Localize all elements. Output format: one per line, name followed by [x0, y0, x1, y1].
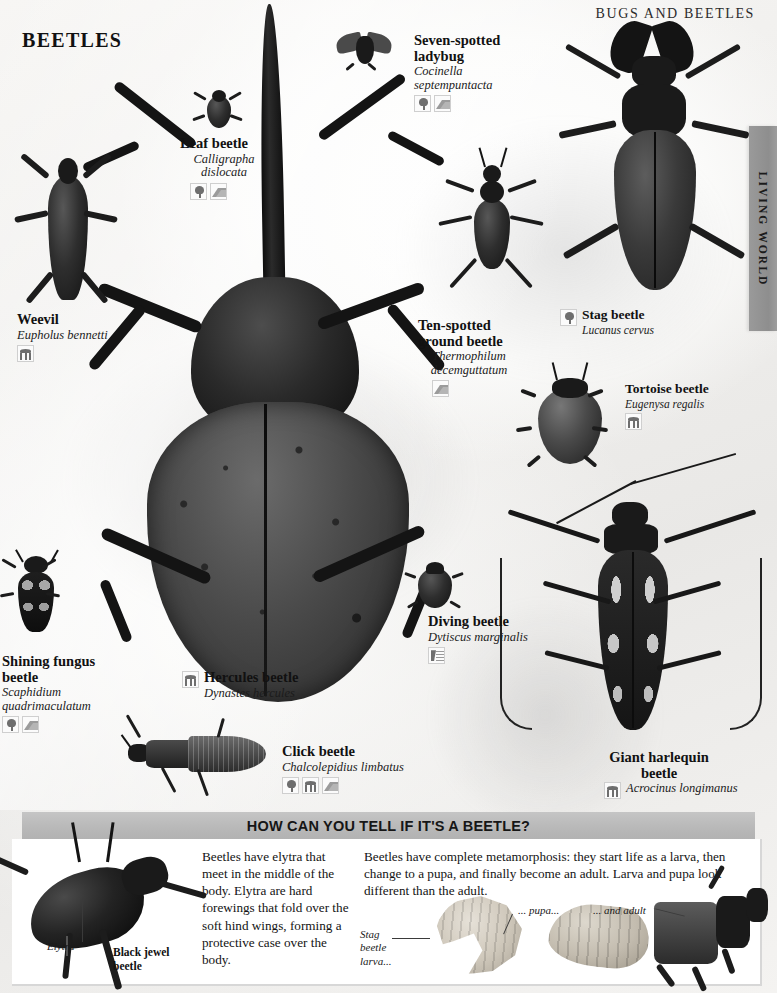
label-stag-beetle: Stag beetle Lucanus cervus [560, 308, 654, 336]
hercules-beetle-photo [85, 2, 445, 692]
stag-beetle-common-name: Stag beetle [582, 308, 654, 323]
tree-icon [560, 309, 577, 326]
giant-harlequin-beetle-habitat-icons [604, 782, 621, 799]
canopy-icon [182, 671, 199, 688]
diving-beetle-latin-name: Dytiscus marginalis [428, 631, 528, 645]
mountain-icon [434, 95, 451, 112]
hercules-beetle-latin-name: Dynastes hercules [204, 687, 298, 701]
black-jewel-beetle-callout-text: Black jewel beetle [113, 946, 170, 972]
stag-beetle-latin-name: Lucanus cervus [582, 324, 654, 336]
callout-adult: ... and adult [593, 904, 646, 917]
label-giant-harlequin-beetle: Giant harlequin beetle Acrocinus longima… [604, 750, 754, 796]
click-beetle-latin-name: Chalcolepidius limbatus [282, 761, 404, 775]
living-world-tab[interactable]: LIVING WORLD [749, 126, 777, 331]
hercules-elytra-seam [264, 404, 267, 696]
label-click-beetle: Click beetle Chalcolepidius limbatus [282, 744, 404, 794]
leaf-beetle-photo [196, 88, 242, 134]
tree-icon [190, 183, 207, 200]
stag-beetle-adult-photo [650, 880, 770, 980]
leaf-beetle-habitat-icons [190, 183, 268, 200]
canopy-icon [17, 345, 34, 362]
callout-black-jewel-beetle: Black jewel beetle [113, 946, 183, 973]
canopy-icon [625, 413, 642, 430]
stag-beetle-habitat-icons [560, 309, 577, 326]
hercules-beetle-common-name: Hercules beetle [204, 670, 298, 686]
label-weevil: Weevil Eupholus bennetti [17, 312, 108, 362]
callout-larva-leader [392, 938, 430, 939]
ten-spotted-ground-beetle-photo [452, 145, 532, 315]
label-leaf-beetle: Leaf beetle Calligrapha dislocata [180, 136, 268, 200]
mountain-icon [210, 183, 227, 200]
click-beetle-photo [122, 716, 282, 796]
shining-fungus-beetle-latin-name: Scaphidium quadrimaculatum [2, 686, 120, 713]
giant-harlequin-beetle-latin-name: Acrocinus longimanus [626, 782, 754, 796]
callout-elytra-leader [82, 898, 83, 942]
seven-spotted-ladybug-habitat-icons [414, 95, 524, 112]
leaf-beetle-latin-name: Calligrapha dislocata [180, 153, 268, 180]
shining-fungus-beetle-common-name: Shining fungus beetle [2, 654, 120, 685]
label-hercules-beetle: Hercules beetle Dynastes hercules [182, 670, 298, 700]
feature-panel-heading: HOW CAN YOU TELL IF IT'S A BEETLE? [247, 818, 530, 834]
diving-beetle-photo [408, 560, 462, 616]
encyclopedia-page: BUGS AND BEETLES BEETLES LIVING WORLD We… [0, 0, 777, 993]
weevil-latin-name: Eupholus bennetti [17, 329, 108, 343]
mountain-icon [432, 380, 449, 397]
seven-spotted-ladybug-latin-name: Cocinella septempuntacta [414, 65, 524, 92]
click-beetle-habitat-icons [282, 777, 404, 794]
living-world-tab-label: LIVING WORLD [757, 171, 769, 286]
callout-stag-beetle-larva: Stag beetle larva... [360, 928, 394, 968]
diving-beetle-habitat-icons [428, 647, 528, 664]
seven-spotted-ladybug-common-name: Seven-spotted ladybug [414, 33, 524, 64]
label-tortoise-beetle: Tortoise beetle Eugenysa regalis [625, 382, 709, 430]
tortoise-beetle-common-name: Tortoise beetle [625, 382, 709, 397]
tree-icon [2, 716, 19, 733]
tree-icon [414, 95, 431, 112]
label-shining-fungus-beetle: Shining fungus beetle Scaphidium quadrim… [2, 654, 120, 733]
label-ten-spotted-ground-beetle: Ten-spotted ground beetle Thermophilum d… [418, 318, 520, 397]
giant-harlequin-beetle-common-name: Giant harlequin beetle [604, 750, 714, 781]
tortoise-beetle-habitat-icons [625, 413, 709, 430]
stag-beetle-larva-photo [430, 890, 530, 980]
label-seven-spotted-ladybug: Seven-spotted ladybug Cocinella septempu… [414, 33, 524, 112]
callout-elytra: Elytra [47, 940, 75, 953]
ten-spotted-ground-beetle-common-name: Ten-spotted ground beetle [418, 318, 520, 349]
canopy-icon [302, 777, 319, 794]
label-diving-beetle: Diving beetle Dytiscus marginalis [428, 614, 528, 664]
canopy-icon [604, 782, 621, 799]
mountain-icon [322, 777, 339, 794]
weevil-common-name: Weevil [17, 312, 108, 328]
stag-beetle-photo [560, 12, 750, 312]
ten-spotted-ground-beetle-latin-name: Thermophilum decemguttatum [418, 350, 520, 377]
ten-spotted-ground-beetle-habitat-icons [432, 380, 520, 397]
feature-column-left: Beetles have elytra that meet in the mid… [202, 848, 354, 968]
mountain-icon [22, 716, 39, 733]
callout-pupa: ... pupa... [518, 904, 559, 917]
page-title: BEETLES [22, 29, 122, 52]
water-icon [428, 647, 445, 664]
weevil-photo [18, 148, 114, 334]
click-beetle-common-name: Click beetle [282, 744, 404, 760]
section-kicker: BUGS AND BEETLES [596, 6, 755, 22]
tree-icon [282, 777, 299, 794]
diving-beetle-common-name: Diving beetle [428, 614, 528, 630]
shining-fungus-beetle-photo [6, 552, 66, 644]
seven-spotted-ladybug-photo [330, 28, 400, 76]
shining-fungus-beetle-habitat-icons [2, 716, 120, 733]
tortoise-beetle-latin-name: Eugenysa regalis [625, 398, 709, 410]
leaf-beetle-common-name: Leaf beetle [180, 136, 268, 152]
weevil-habitat-icons [17, 345, 108, 362]
giant-harlequin-beetle-photo [500, 440, 760, 770]
hercules-beetle-habitat-icons [182, 671, 199, 688]
